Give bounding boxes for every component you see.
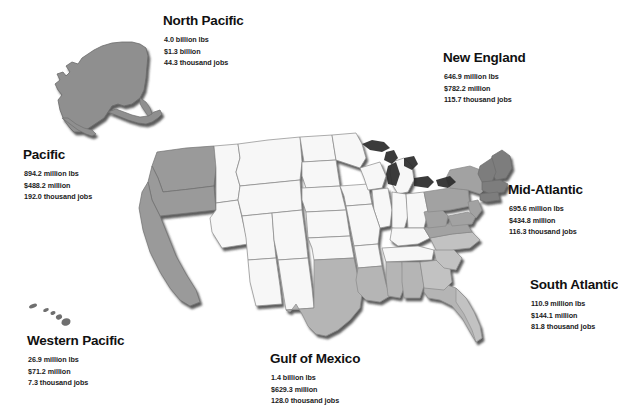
region-title-north-pacific: North Pacific (163, 14, 244, 29)
state-minnesota (332, 133, 366, 168)
stat-jobs: 44.3 thousand jobs (164, 57, 244, 69)
region-callout-new-england: New England 646.9 million lbs $782.2 mil… (443, 51, 526, 106)
state-indiana (392, 192, 408, 230)
stat-landings: 4.0 billion lbs (164, 34, 244, 46)
state-kentucky (390, 228, 430, 246)
state-new-hampshire-vermont (478, 158, 496, 182)
stat-value: $488.2 million (24, 180, 92, 192)
state-utah (242, 213, 276, 260)
state-arkansas (354, 244, 382, 268)
stat-value: $1.3 billion (164, 46, 244, 58)
stat-jobs: 81.8 thousand jobs (531, 321, 618, 333)
region-stats-mid-atlantic: 695.6 million lbs $434.8 million 116.3 t… (508, 203, 583, 238)
state-massachusetts (482, 180, 508, 194)
state-connecticut-rhode-island (480, 192, 500, 202)
stat-landings: 646.9 million lbs (444, 71, 526, 83)
state-alaska (55, 42, 162, 136)
stat-jobs: 128.0 thousand jobs (271, 395, 360, 407)
state-mississippi (386, 262, 404, 298)
state-wyoming (238, 180, 302, 216)
state-montana (236, 137, 302, 186)
state-new-mexico (278, 258, 314, 310)
contiguous-us (139, 133, 512, 342)
region-title-western-pacific: Western Pacific (27, 334, 124, 349)
state-south-dakota (302, 160, 340, 188)
region-title-south-atlantic: South Atlantic (530, 278, 618, 293)
state-hawaii (28, 303, 71, 327)
stat-landings: 26.9 million lbs (28, 354, 124, 366)
state-tennessee (382, 246, 434, 262)
region-callout-gulf-of-mexico: Gulf of Mexico 1.4 billion lbs $629.3 mi… (270, 352, 360, 407)
region-title-new-england: New England (443, 51, 526, 66)
state-colorado (272, 210, 308, 260)
region-title-mid-atlantic: Mid-Atlantic (508, 183, 583, 198)
stat-jobs: 7.3 thousand jobs (28, 377, 124, 389)
state-oklahoma (308, 236, 354, 260)
stat-landings: 110.9 million lbs (531, 298, 618, 310)
stat-value: $629.3 million (271, 384, 360, 396)
stat-jobs: 192.0 thousand jobs (24, 191, 92, 203)
region-title-gulf-of-mexico: Gulf of Mexico (270, 352, 360, 367)
stat-landings: 894.2 million lbs (24, 168, 92, 180)
region-title-pacific: Pacific (23, 148, 92, 163)
stat-value: $144.1 million (531, 310, 618, 322)
stat-landings: 695.6 million lbs (509, 203, 583, 215)
stat-value: $434.8 million (509, 215, 583, 227)
region-callout-north-pacific: North Pacific 4.0 billion lbs $1.3 billi… (163, 14, 244, 69)
stat-landings: 1.4 billion lbs (271, 372, 360, 384)
region-stats-new-england: 646.9 million lbs $782.2 million 115.7 t… (443, 71, 526, 106)
stat-jobs: 115.7 thousand jobs (444, 94, 526, 106)
region-callout-south-atlantic: South Atlantic 110.9 million lbs $144.1 … (530, 278, 618, 333)
state-north-dakota (300, 135, 336, 162)
state-pennsylvania (424, 188, 470, 212)
state-washington (152, 146, 216, 192)
region-stats-gulf-of-mexico: 1.4 billion lbs $629.3 million 128.0 tho… (270, 372, 360, 407)
state-nebraska (302, 186, 346, 212)
region-stats-north-pacific: 4.0 billion lbs $1.3 billion 44.3 thousa… (163, 34, 244, 69)
stat-jobs: 116.3 thousand jobs (509, 226, 583, 238)
region-stats-western-pacific: 26.9 million lbs $71.2 million 7.3 thous… (27, 354, 124, 389)
state-kansas (306, 210, 350, 238)
stat-value: $71.2 million (28, 366, 124, 378)
region-callout-western-pacific: Western Pacific 26.9 million lbs $71.2 m… (27, 334, 124, 389)
region-stats-pacific: 894.2 million lbs $488.2 million 192.0 t… (23, 168, 92, 203)
region-callout-pacific: Pacific 894.2 million lbs $488.2 million… (23, 148, 92, 203)
region-callout-mid-atlantic: Mid-Atlantic 695.6 million lbs $434.8 mi… (508, 183, 583, 238)
region-stats-south-atlantic: 110.9 million lbs $144.1 million 81.8 th… (530, 298, 618, 333)
state-arizona (248, 258, 282, 306)
stat-value: $782.2 million (444, 83, 526, 95)
state-ohio (406, 192, 428, 228)
